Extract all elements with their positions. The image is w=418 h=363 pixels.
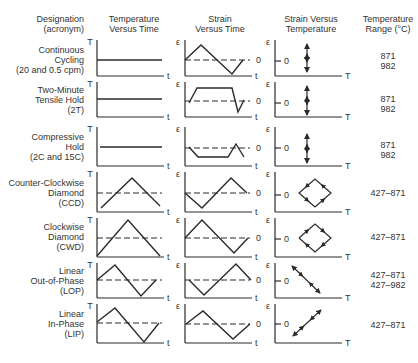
row-5-strain-waveform: [185, 220, 248, 253]
row-3-strain-time-x-label: t: [255, 161, 258, 171]
row-1-temp-time-y-label: T: [87, 37, 93, 47]
row-1-strain-temp-y-label: ε: [266, 37, 270, 47]
row-1-temp-time-x-label: t: [167, 71, 170, 81]
waveform-plots: Ttεt0εT0Ttεt0εT0Ttεt0εT0Ttεt0εT0Ttεt0εT0…: [0, 0, 418, 363]
row-7-strain-waveform: [186, 311, 250, 339]
row-6-strain-time-x-label: t: [255, 293, 258, 303]
row-1-strain-time-y-label: ε: [176, 37, 180, 47]
row-2-strain-zero-label: 0: [256, 96, 261, 106]
row-7-strain-time-x-label: t: [255, 338, 258, 348]
row-3-temp-time-y-label: T: [87, 124, 93, 134]
row-7-strain-temp-y-label: ε: [266, 301, 270, 311]
row-6-strain-time-y-label: ε: [176, 260, 180, 270]
row-6-zero-label: 0: [284, 276, 289, 286]
row-5-temp-time-x-label: t: [167, 252, 170, 262]
row-6-temp-time-x-label: t: [167, 293, 170, 303]
row-4-strain-zero-label: 0: [256, 188, 261, 198]
row-1-strain-temp-x-label: T: [345, 71, 351, 81]
row-5-temp-time-y-label: T: [87, 215, 93, 225]
row-2-strain-temp-y-label: ε: [266, 79, 270, 89]
row-4-temp-time-y-label: T: [87, 169, 93, 179]
row-2-strain-time-y-label: ε: [176, 79, 180, 89]
row-7-strain-path-arrow: [293, 310, 321, 336]
row-2-strain-waveform: [189, 88, 244, 112]
row-5-strain-time-y-label: ε: [176, 215, 180, 225]
row-6-temp-time-y-label: T: [87, 260, 93, 270]
row-5-hysteresis-diamond: [299, 224, 331, 252]
row-7-strain-zero-label: 0: [256, 319, 261, 329]
row-4-temp-time-x-label: t: [167, 207, 170, 217]
row-6-direction-arrow-icon: [299, 272, 303, 276]
row-4-strain-temp-y-label: ε: [266, 169, 270, 179]
row-1-strain-time-x-label: t: [255, 71, 258, 81]
row-4-strain-temp-x-label: T: [345, 207, 351, 217]
row-5-strain-temp-y-label: ε: [266, 215, 270, 225]
row-2-temp-time-y-label: T: [87, 79, 93, 89]
row-6-strain-zero-label: 0: [256, 275, 261, 285]
row-7-strain-temp-x-label: T: [345, 338, 351, 348]
row-7-direction-arrow-icon: [310, 316, 314, 320]
row-7-strain-time-y-label: ε: [176, 301, 180, 311]
row-2-zero-label: 0: [284, 98, 289, 108]
row-2-strain-temp-x-label: T: [345, 112, 351, 122]
row-3-zero-label: 0: [284, 143, 289, 153]
row-5-strain-zero-label: 0: [256, 233, 261, 243]
row-4-hysteresis-diamond: [299, 179, 331, 207]
row-1-zero-label: 0: [284, 56, 289, 66]
row-6-strain-path-arrow: [292, 266, 320, 293]
row-5-strain-temp-x-label: T: [345, 252, 351, 262]
row-3-temp-time-x-label: t: [167, 161, 170, 171]
row-3-strain-temp-x-label: T: [345, 161, 351, 171]
row-2-strain-time-x-label: t: [255, 112, 258, 122]
row-4-strain-time-y-label: ε: [176, 169, 180, 179]
row-6-strain-temp-x-label: T: [345, 293, 351, 303]
row-5-zero-label: 0: [284, 234, 289, 244]
row-6-strain-temp-y-label: ε: [266, 260, 270, 270]
row-3-strain-zero-label: 0: [256, 143, 261, 153]
row-3-strain-temp-y-label: ε: [266, 124, 270, 134]
row-4-zero-label: 0: [284, 190, 289, 200]
row-4-strain-time-x-label: t: [255, 207, 258, 217]
row-7-zero-label: 0: [284, 319, 289, 329]
row-7-temp-time-y-label: T: [87, 301, 93, 311]
row-5-strain-time-x-label: t: [255, 252, 258, 262]
row-1-strain-zero-label: 0: [256, 55, 261, 65]
row-6-direction-arrow-icon: [309, 283, 313, 287]
row-2-temp-time-x-label: t: [167, 112, 170, 122]
row-7-direction-arrow-icon: [300, 326, 304, 330]
row-7-temp-waveform: [97, 308, 159, 342]
row-3-strain-waveform: [189, 144, 244, 157]
row-7-temp-time-x-label: t: [167, 338, 170, 348]
row-3-strain-time-y-label: ε: [176, 124, 180, 134]
